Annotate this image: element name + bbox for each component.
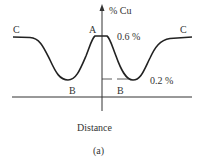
y-axis-label: % Cu [109, 6, 132, 16]
point-label-right-c: C [180, 25, 187, 35]
figure-caption: (a) [93, 146, 104, 156]
level-label-low: 0.2 % [150, 76, 173, 86]
x-axis-label: Distance [77, 123, 112, 133]
point-label-peak-a: A [89, 25, 96, 35]
point-label-right-b: B [117, 86, 124, 96]
point-label-left-c: C [13, 25, 20, 35]
level-label-high: 0.6 % [117, 32, 140, 42]
point-label-left-b: B [69, 86, 76, 96]
y-axis-arrow-icon [100, 4, 105, 11]
